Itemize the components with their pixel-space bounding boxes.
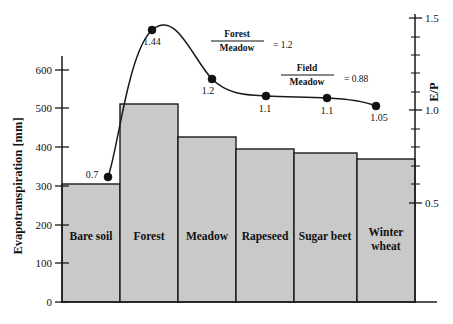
ep-value-label-meadow: 1.2	[202, 85, 215, 96]
bar-label-sugar-beet: Sugar beet	[299, 230, 352, 243]
left-tick-label-0: 0	[47, 296, 53, 308]
bar-label-bare-soil: Bare soil	[70, 230, 113, 242]
bar-bare-soil	[62, 184, 120, 302]
chart-container: Bare soil Forest Meadow Rapeseed Sugar b…	[0, 0, 453, 324]
annotation-forest-meadow: Forest Meadow = 1.2	[211, 29, 293, 53]
right-tick-label-1.5: 1.5	[425, 12, 439, 24]
bar-rapeseed	[236, 149, 294, 302]
bar-label-winter-wheat-line2: wheat	[371, 240, 401, 252]
ep-value-label-sugar-beet: 1.1	[321, 105, 334, 116]
ep-point-rapeseed	[262, 92, 270, 100]
ep-point-winter-wheat	[372, 102, 380, 110]
ep-point-forest	[148, 26, 156, 34]
annotation-forest-equals: = 1.2	[273, 40, 293, 50]
left-tick-label-200: 200	[36, 219, 53, 231]
ep-point-bare-soil	[104, 173, 112, 181]
left-tick-label-500: 500	[36, 102, 53, 114]
left-tick-label-600: 600	[36, 64, 53, 76]
bar-label-meadow: Meadow	[186, 230, 229, 242]
bar-label-rapeseed: Rapeseed	[242, 230, 289, 243]
bar-meadow	[178, 137, 236, 302]
left-tick-label-300: 300	[36, 180, 53, 192]
y-axis-title: Evapotranspiration [mm]	[11, 117, 25, 254]
ep-value-label-forest: 1.44	[143, 36, 161, 47]
right-tick-label-0.5: 0.5	[425, 197, 439, 209]
bar-sugar-beet	[294, 153, 357, 302]
bar-series	[62, 104, 415, 302]
left-tick-label-400: 400	[36, 141, 53, 153]
annotation-field-equals: = 0.88	[344, 74, 369, 84]
bar-label-winter-wheat-line1: Winter	[369, 226, 404, 238]
annotation-forest-denominator: Meadow	[220, 43, 255, 53]
left-axis: 600 500 400 300 200 100 0 Evapotranspira…	[11, 56, 69, 308]
y2-axis-title: E/P	[427, 82, 441, 102]
bar-forest	[120, 104, 178, 302]
right-tick-label-1.0: 1.0	[425, 104, 439, 116]
evapotranspiration-ep-chart: Bare soil Forest Meadow Rapeseed Sugar b…	[0, 0, 453, 324]
bar-label-forest: Forest	[133, 230, 164, 242]
ep-point-sugar-beet	[323, 94, 331, 102]
ep-value-label-bare-soil: 0.7	[86, 169, 99, 180]
annotation-field-denominator: Meadow	[290, 77, 325, 87]
annotation-field-meadow: Field Meadow = 0.88	[281, 63, 369, 87]
ep-value-label-rapeseed: 1.1	[259, 103, 272, 114]
annotation-forest-numerator: Forest	[224, 29, 251, 39]
ep-value-label-winter-wheat: 1.05	[370, 112, 388, 123]
annotation-field-numerator: Field	[297, 63, 318, 73]
ep-point-meadow	[208, 75, 216, 83]
left-tick-label-100: 100	[36, 257, 53, 269]
